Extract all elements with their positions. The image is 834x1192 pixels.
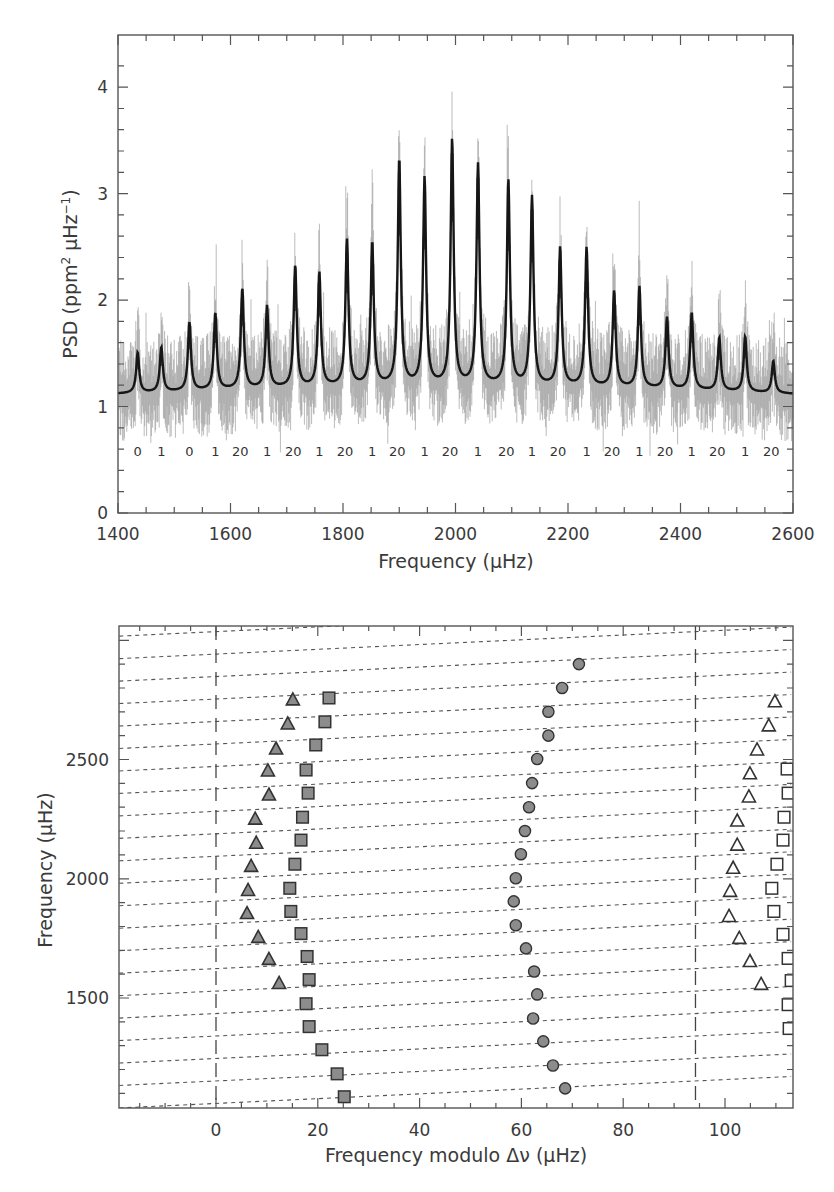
y-tick-label: 2000 xyxy=(66,869,109,889)
square-marker xyxy=(310,739,322,751)
triangle-marker xyxy=(273,976,286,988)
circle-marker xyxy=(523,802,534,813)
triangle-marker xyxy=(755,977,768,989)
triangle-marker xyxy=(281,717,294,729)
square-marker xyxy=(297,811,309,823)
circle-marker xyxy=(508,896,519,907)
square-marker xyxy=(781,763,793,775)
y-tick-label: 2500 xyxy=(66,750,109,770)
triangle-marker xyxy=(727,861,740,873)
circle-marker xyxy=(543,706,554,717)
mode-label: 1 xyxy=(368,444,376,459)
x-tick-label: 0 xyxy=(211,1120,222,1140)
triangle-marker xyxy=(742,790,755,802)
square-marker xyxy=(316,1044,328,1056)
square-marker xyxy=(295,834,307,846)
square-marker xyxy=(766,882,778,894)
x-tick-label: 2600 xyxy=(771,524,814,544)
y-tick-label: 2 xyxy=(97,290,108,310)
mode-label: 1 xyxy=(263,444,271,459)
mode-label: 20 xyxy=(763,444,780,459)
mode-label: 20 xyxy=(550,444,567,459)
triangle-marker xyxy=(768,695,781,707)
square-marker xyxy=(295,928,307,940)
square-marker xyxy=(289,858,301,870)
square-marker xyxy=(319,716,331,728)
triangle-marker xyxy=(242,883,255,895)
triangle-marker xyxy=(270,742,283,754)
x-tick-label: 40 xyxy=(409,1120,431,1140)
circle-marker xyxy=(560,1083,571,1094)
circle-marker xyxy=(520,943,531,954)
psd-x-axis-title: Frequency (μHz) xyxy=(378,550,533,572)
triangle-marker xyxy=(262,952,275,964)
square-marker xyxy=(782,999,794,1011)
square-marker xyxy=(777,929,789,941)
psd-x-tick-labels: 1400160018002000220024002600 xyxy=(96,524,814,544)
mode-label: 1 xyxy=(157,444,165,459)
mode-label: 20 xyxy=(389,444,406,459)
circle-marker xyxy=(526,778,537,789)
square-marker xyxy=(778,811,790,823)
square-marker xyxy=(785,975,797,987)
ridge-line xyxy=(119,1076,791,1107)
mode-degree-labels: 010120120120120120120120120120120120 xyxy=(134,444,780,459)
square-marker xyxy=(782,787,794,799)
psd-y-tick-labels: 01234 xyxy=(97,77,108,523)
x-tick-label: 20 xyxy=(307,1120,329,1140)
mode-label: 1 xyxy=(688,444,696,459)
triangle-marker xyxy=(724,884,737,896)
square-marker xyxy=(777,834,789,846)
circle-marker xyxy=(573,659,584,670)
triangle-marker xyxy=(751,743,764,755)
triangle-marker xyxy=(743,767,756,779)
mode-label: 1 xyxy=(474,444,482,459)
mode-label: 20 xyxy=(604,444,621,459)
square-marker xyxy=(303,1021,315,1033)
x-tick-label: 2000 xyxy=(434,524,477,544)
triangle-marker xyxy=(250,836,263,848)
y-tick-label: 1 xyxy=(97,397,108,417)
mode-label: 0 xyxy=(134,444,142,459)
echelle-y-axis-title: Frequency (μHz) xyxy=(34,792,56,947)
circle-marker xyxy=(532,753,543,764)
mode-label: 20 xyxy=(498,444,515,459)
mode-label: 20 xyxy=(442,444,459,459)
triangle-marker xyxy=(249,812,262,824)
triangle-marker xyxy=(262,788,275,800)
mode-label: 20 xyxy=(709,444,726,459)
mode-label: 20 xyxy=(232,444,249,459)
echelle-x-axis-title: Frequency modulo Δν (μHz) xyxy=(325,1144,587,1166)
circle-marker xyxy=(510,920,521,931)
psd-y-axis-title: PSD (ppm2 μHz−1) xyxy=(59,189,81,358)
y-tick-label: 1500 xyxy=(66,988,109,1008)
square-marker xyxy=(300,764,312,776)
ridge-line xyxy=(119,582,791,613)
mode-label: 1 xyxy=(635,444,643,459)
y-tick-label: 4 xyxy=(97,77,108,97)
y-tick-label: 0 xyxy=(97,503,108,523)
mode-label: 0 xyxy=(185,444,193,459)
circle-marker xyxy=(529,966,540,977)
psd-noise-spectrum xyxy=(119,92,793,456)
square-marker xyxy=(338,1091,350,1103)
triangle-marker xyxy=(743,955,756,967)
echelle-y-tick-labels: 150020002500 xyxy=(66,750,109,1009)
square-marker xyxy=(302,787,314,799)
echelle-ridge-lines xyxy=(119,582,791,1108)
x-tick-label: 1600 xyxy=(209,524,252,544)
square-marker xyxy=(771,858,783,870)
mode-label: 1 xyxy=(741,444,749,459)
echelle-x-tick-labels: 020406080100 xyxy=(211,1120,742,1140)
triangle-marker xyxy=(731,814,744,826)
mode-label: 1 xyxy=(528,444,536,459)
triangle-marker xyxy=(762,719,775,731)
figure: 010120120120120120120120120120120120 140… xyxy=(0,0,834,1192)
mode-label: 20 xyxy=(657,444,674,459)
circle-marker xyxy=(547,1060,558,1071)
x-tick-label: 60 xyxy=(511,1120,533,1140)
triangle-marker xyxy=(252,930,265,942)
echelle-panel: 020406080100 150020002500 Frequency modu… xyxy=(34,582,797,1166)
circle-marker xyxy=(515,849,526,860)
square-marker xyxy=(303,974,315,986)
